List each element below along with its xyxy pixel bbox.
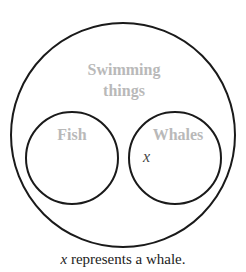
outer-label-line1: Swimming [88, 61, 161, 79]
element-x: x [142, 148, 150, 165]
fish-label: Fish [57, 126, 86, 143]
outer-label-line2: things [103, 82, 145, 100]
whales-label: Whales [153, 126, 204, 143]
caption-text: represents a whale. [67, 251, 185, 267]
venn-diagram: Swimming things Fish Whales x [0, 0, 246, 250]
caption: x represents a whale. [0, 251, 246, 268]
